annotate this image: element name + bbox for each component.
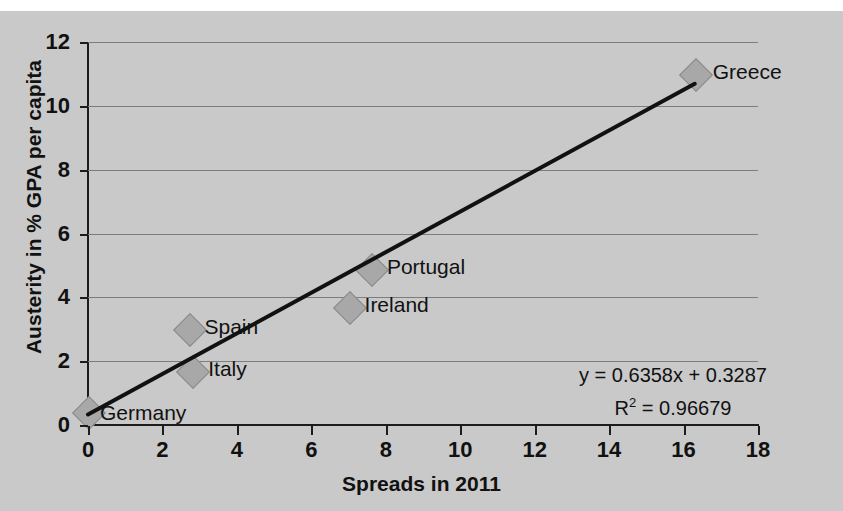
y-tick-label: 12 — [30, 31, 70, 53]
point-label-italy: Italy — [208, 357, 247, 381]
y-tick-mark — [80, 297, 88, 299]
gridline — [88, 106, 758, 107]
y-tick-mark — [80, 170, 88, 172]
x-tick-label: 12 — [512, 438, 558, 462]
y-tick-mark — [80, 361, 88, 363]
x-tick-label: 2 — [139, 438, 185, 462]
data-point-marker — [333, 291, 367, 325]
y-tick-label: 2 — [30, 350, 70, 372]
gridline — [88, 234, 758, 235]
point-label-ireland: Ireland — [365, 293, 429, 317]
page-margin-strip — [0, 0, 843, 11]
x-tick-mark — [237, 426, 239, 435]
x-tick-mark — [535, 426, 537, 435]
x-tick-mark — [609, 426, 611, 435]
data-point-marker — [173, 313, 207, 347]
x-axis-title: Spreads in 2011 — [0, 472, 843, 496]
r-squared-value: R2 = 0.96679 — [548, 389, 798, 422]
x-tick-label: 4 — [214, 438, 260, 462]
x-tick-mark — [460, 426, 462, 435]
y-tick-mark — [80, 425, 88, 427]
y-tick-label: 0 — [30, 414, 70, 436]
y-tick-mark — [80, 106, 88, 108]
y-tick-label: 10 — [30, 95, 70, 117]
x-tick-label: 0 — [65, 438, 111, 462]
x-tick-mark — [684, 426, 686, 435]
y-tick-mark — [80, 234, 88, 236]
point-label-greece: Greece — [713, 60, 782, 84]
x-tick-mark — [386, 426, 388, 435]
x-tick-label: 6 — [288, 438, 334, 462]
y-tick-mark — [80, 42, 88, 44]
data-point-marker — [679, 58, 713, 92]
gridline — [88, 170, 758, 171]
x-tick-label: 14 — [586, 438, 632, 462]
y-tick-label: 8 — [30, 159, 70, 181]
x-tick-label: 8 — [363, 438, 409, 462]
point-label-portugal: Portugal — [387, 255, 465, 279]
data-point-marker — [355, 253, 389, 287]
r-squared-suffix: = 0.96679 — [636, 397, 731, 419]
x-tick-mark — [758, 426, 760, 435]
r-squared-prefix: R — [615, 397, 629, 419]
x-tick-label: 10 — [437, 438, 483, 462]
scatter-chart-figure: Austerity in % GPA per capita GermanyIta… — [0, 0, 843, 511]
point-label-germany: Germany — [100, 401, 186, 425]
y-tick-label: 4 — [30, 286, 70, 308]
x-tick-mark — [311, 426, 313, 435]
regression-annotation: y = 0.6358x + 0.3287 R2 = 0.96679 — [548, 362, 798, 422]
x-tick-label: 18 — [735, 438, 781, 462]
x-tick-label: 16 — [661, 438, 707, 462]
regression-equation: y = 0.6358x + 0.3287 — [548, 362, 798, 389]
y-tick-label: 6 — [30, 223, 70, 245]
x-tick-mark — [88, 426, 90, 435]
point-label-spain: Spain — [205, 315, 259, 339]
data-point-marker — [176, 355, 210, 389]
gridline — [88, 42, 758, 43]
x-tick-mark — [162, 426, 164, 435]
